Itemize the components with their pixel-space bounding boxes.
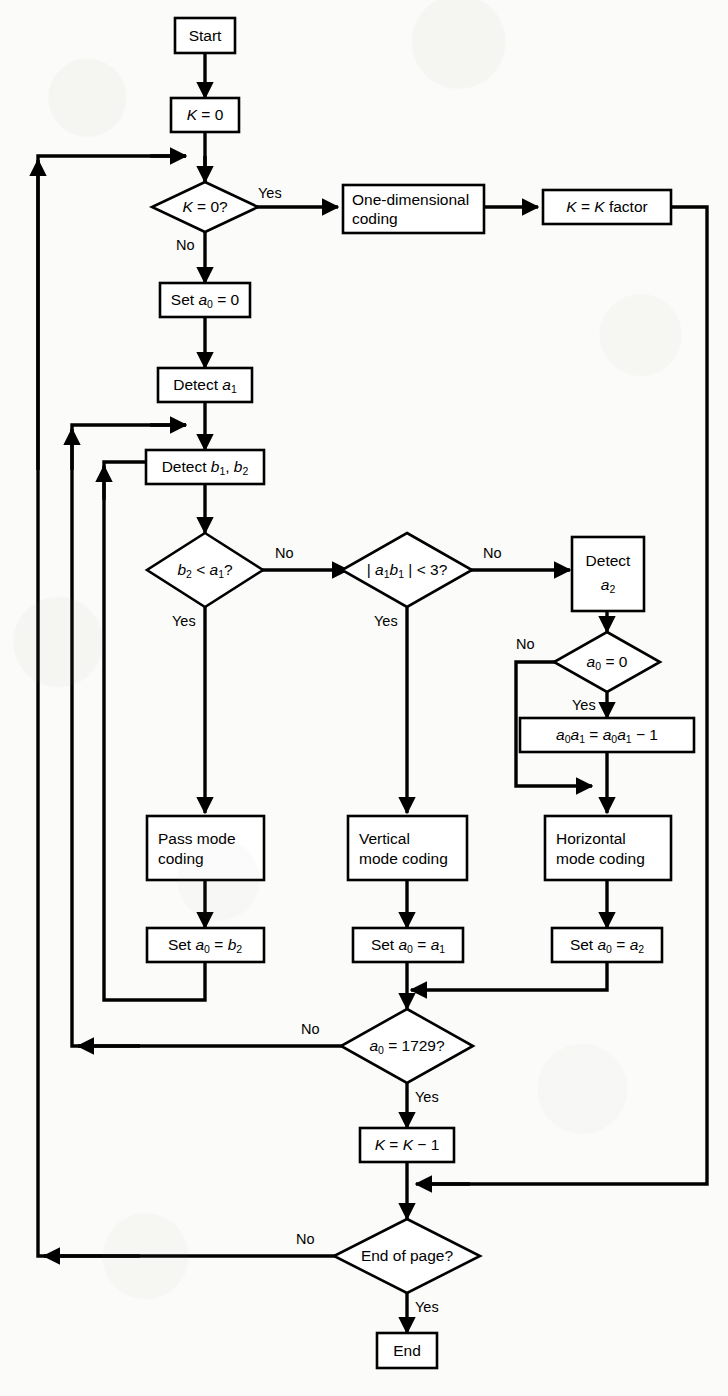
edge-endpage-no bbox=[38, 156, 350, 1256]
node-vertmode-label-line2: mode coding bbox=[359, 850, 448, 867]
node-vertmode-label-line1: Vertical bbox=[359, 830, 410, 847]
edge-label-kzero-no: No bbox=[176, 237, 195, 253]
node-a0a1-decrement[interactable]: a0a1 = a0a1 − 1 bbox=[520, 718, 694, 752]
node-onedim-label-line1: One-dimensional bbox=[352, 191, 469, 208]
node-set-a0-a1[interactable]: Set a0 = a1 bbox=[353, 928, 463, 962]
edge-kfactor-rail bbox=[420, 207, 707, 1184]
node-horizontal-mode-coding[interactable]: Horizontal mode coding bbox=[545, 816, 671, 880]
edge-label-a0eq0-yes: Yes bbox=[572, 697, 596, 713]
node-passmode-label-line1: Pass mode bbox=[158, 830, 236, 847]
node-start-label: Start bbox=[189, 27, 222, 44]
edge-label-b2lta1-yes: Yes bbox=[172, 613, 196, 629]
edge-label-a1b1-yes: Yes bbox=[374, 613, 398, 629]
node-detect-a1[interactable]: Detect a1 bbox=[158, 368, 252, 402]
node-kzero-label: K = 0? bbox=[182, 198, 228, 215]
edge-label-a1b1-no: No bbox=[483, 545, 502, 561]
node-detect-a2[interactable]: Detect a2 bbox=[572, 537, 644, 611]
node-set-a0-a2[interactable]: Set a0 = a2 bbox=[552, 928, 662, 962]
node-set-a0-zero[interactable]: Set a0 = 0 bbox=[160, 283, 250, 317]
node-end-of-page-decision[interactable]: End of page? bbox=[334, 1219, 480, 1293]
node-start[interactable]: Start bbox=[175, 18, 235, 53]
node-end[interactable]: End bbox=[377, 1333, 437, 1368]
node-b2lta1-label: b2 < a1? bbox=[177, 561, 233, 580]
edge-label-a01729-yes: Yes bbox=[415, 1089, 439, 1105]
node-end-label: End bbox=[393, 1342, 421, 1359]
node-a0eq0-label: a0 = 0 bbox=[587, 653, 628, 672]
node-horizmode-label-line2: mode coding bbox=[556, 850, 645, 867]
node-b2-lt-a1-decision[interactable]: b2 < a1? bbox=[147, 533, 263, 607]
node-k-decrement[interactable]: K = K − 1 bbox=[360, 1128, 454, 1162]
node-set-a0-b2[interactable]: Set a0 = b2 bbox=[147, 928, 264, 962]
node-k-assign-zero[interactable]: K = 0 bbox=[171, 98, 239, 132]
node-onedim-label-line2: coding bbox=[352, 210, 398, 227]
node-kminus1-label: K = K − 1 bbox=[375, 1136, 440, 1153]
node-vertical-mode-coding[interactable]: Vertical mode coding bbox=[348, 816, 467, 880]
edge-label-a0eq0-no: No bbox=[516, 636, 535, 652]
node-a1b1lt3-label: | a1b1 | < 3? bbox=[367, 561, 448, 580]
node-a0a1dec-label: a0a1 = a0a1 − 1 bbox=[556, 726, 658, 745]
node-horizmode-label-line1: Horizontal bbox=[556, 830, 626, 847]
node-endpage-label: End of page? bbox=[361, 1247, 454, 1264]
node-k0set-label: K = 0 bbox=[187, 106, 224, 123]
node-seta0-label: Set a0 = 0 bbox=[171, 291, 240, 310]
node-detect-b1-b2[interactable]: Detect b1, b2 bbox=[146, 450, 264, 484]
flowchart-canvas: Start K = 0 K = 0? Yes No One-dimensiona… bbox=[0, 0, 728, 1396]
edge-label-a01729-no: No bbox=[301, 1021, 320, 1037]
edge-label-endpage-yes: Yes bbox=[415, 1299, 439, 1315]
node-deta1-label: Detect a1 bbox=[173, 376, 237, 395]
node-passmode-label-line2: coding bbox=[158, 850, 204, 867]
node-pass-mode-coding[interactable]: Pass mode coding bbox=[147, 816, 264, 880]
node-k-equals-zero-decision[interactable]: K = 0? bbox=[152, 182, 258, 232]
node-a1b1-lt-3-decision[interactable]: | a1b1 | < 3? bbox=[342, 533, 472, 607]
flowchart-page: Start K = 0 K = 0? Yes No One-dimensiona… bbox=[0, 0, 728, 1396]
node-k-equals-k-factor[interactable]: K = K factor bbox=[543, 190, 671, 224]
edge-seta0a2-join bbox=[411, 962, 607, 990]
node-one-dimensional-coding[interactable]: One-dimensional coding bbox=[343, 185, 484, 233]
node-deta2-label-line1: Detect bbox=[586, 552, 631, 569]
node-detb1b2-label: Detect b1, b2 bbox=[162, 458, 249, 477]
node-a0-equals-zero-decision[interactable]: a0 = 0 bbox=[554, 632, 660, 692]
edge-label-kzero-yes: Yes bbox=[258, 185, 282, 201]
edge-label-b2lta1-no: No bbox=[275, 545, 294, 561]
node-kfactor-label: K = K factor bbox=[566, 198, 647, 215]
edge-label-endpage-no: No bbox=[296, 1231, 315, 1247]
node-a0-equals-1729-decision[interactable]: a0 = 1729? bbox=[341, 1009, 473, 1083]
